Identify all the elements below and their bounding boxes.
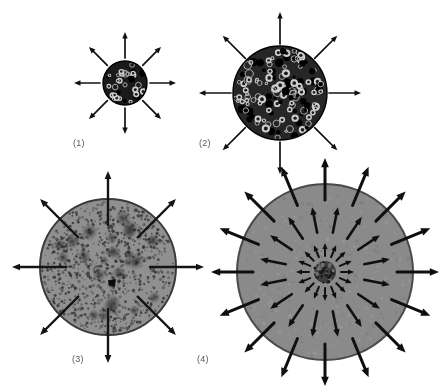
panel-label-4: (4) [197,354,209,364]
expanding-sphere-figure-canvas [0,0,441,392]
panel-label-1: (1) [73,138,85,148]
panel-label-2: (2) [199,138,211,148]
figure-root: (1) (2) (3) (4) [0,0,441,392]
panel-label-3: (3) [72,354,84,364]
